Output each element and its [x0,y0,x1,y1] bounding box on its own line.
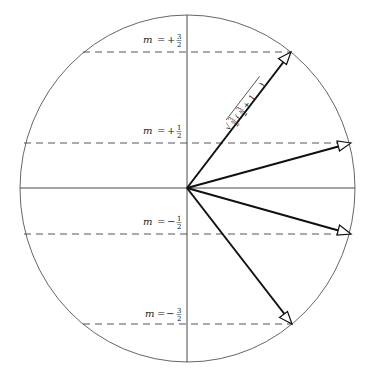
svg-text:2: 2 [177,132,181,140]
arrowhead-icon [280,312,293,325]
svg-text:=: = [157,308,165,319]
arrowhead-icon [337,225,351,235]
svg-text:1: 1 [177,215,181,223]
label-m-minus-one-half: m = − 1 2 [143,215,182,231]
arrowhead-icon [279,52,292,65]
svg-text:2: 2 [177,223,181,231]
svg-text:3: 3 [177,307,181,315]
svg-text:m: m [143,216,152,227]
label-m-minus-three-halves: m = − 3 2 [145,307,182,323]
vector-model-diagram: √ 3 2 ( 3 2 + 1 ) m = + 3 2 m = + 1 2 m … [0,0,371,378]
svg-text:m: m [143,34,152,45]
svg-text:m: m [143,125,152,136]
svg-text:3: 3 [177,33,181,41]
svg-text:=: = [157,34,165,45]
label-m-plus-one-half: m = + 1 2 [143,124,182,140]
vector-m-minus-three-halves [187,188,292,324]
svg-text:=: = [157,216,165,227]
vector-magnitude-label: √ 3 2 ( 3 2 + 1 ) [222,76,272,134]
svg-text:−: − [167,216,175,227]
vector-m-minus-one-half [187,188,351,235]
svg-text:+ 1: + 1 [240,92,257,110]
svg-text:m: m [145,308,154,319]
svg-text:+: + [167,34,175,45]
svg-text:=: = [157,125,165,136]
svg-text:1: 1 [177,124,181,132]
svg-text:+: + [167,125,175,136]
vector-m-plus-one-half [187,141,351,188]
label-m-plus-three-halves: m = + 3 2 [143,33,182,49]
arrowhead-icon [337,141,351,151]
svg-text:−: − [166,308,174,319]
svg-text:2: 2 [177,41,181,49]
svg-text:2: 2 [177,315,181,323]
